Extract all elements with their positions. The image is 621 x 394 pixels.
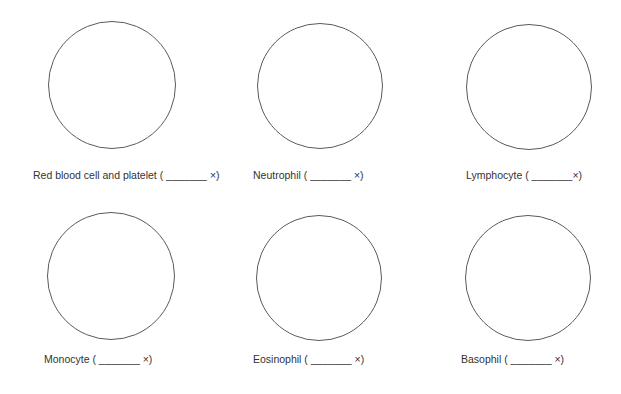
drawing-circle-neutrophil[interactable] — [257, 23, 383, 149]
drawing-circle-rbc-platelet[interactable] — [48, 21, 176, 149]
caption-rbc-platelet: Red blood cell and platelet ( _______ ×) — [33, 169, 220, 181]
drawing-circle-basophil[interactable] — [465, 215, 591, 341]
caption-eosinophil: Eosinophil ( _______ ×) — [253, 353, 364, 365]
caption-monocyte: Monocyte ( _______ ×) — [44, 353, 152, 365]
caption-lymphocyte: Lymphocyte ( _______×) — [466, 169, 582, 181]
drawing-circle-eosinophil[interactable] — [256, 215, 382, 341]
caption-neutrophil: Neutrophil ( _______ ×) — [253, 169, 364, 181]
drawing-circle-lymphocyte[interactable] — [466, 24, 592, 150]
caption-basophil: Basophil ( _______ ×) — [461, 353, 564, 365]
drawing-circle-monocyte[interactable] — [47, 212, 175, 340]
blood-cell-drawing-worksheet: Red blood cell and platelet ( _______ ×)… — [0, 0, 621, 394]
